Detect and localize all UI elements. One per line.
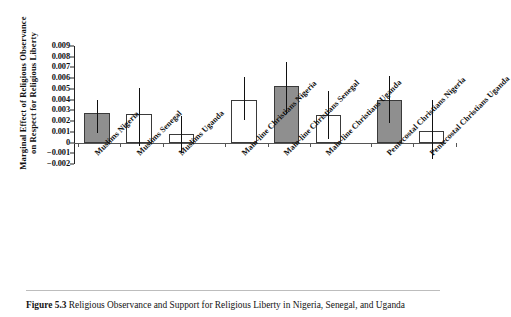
caption-divider	[26, 290, 440, 291]
error-bar	[286, 62, 287, 113]
y-tick-mark	[70, 142, 74, 143]
y-tick-mark	[70, 67, 74, 68]
y-axis-title-line2: on Respect for Religious Liberty	[28, 8, 38, 178]
x-tick-mark	[225, 143, 226, 147]
y-tick-label: 0.006	[52, 74, 70, 82]
x-tick-mark	[310, 143, 311, 147]
error-bar	[139, 88, 140, 146]
x-tick-mark	[413, 143, 414, 147]
y-tick-mark	[70, 153, 74, 154]
y-tick-mark	[70, 110, 74, 111]
y-tick-label: 0.007	[52, 63, 70, 71]
y-tick-mark	[70, 78, 74, 79]
y-tick-label: 0.009	[52, 42, 70, 50]
y-tick-label: 0.004	[52, 95, 70, 103]
y-tick-label: 0	[66, 138, 70, 146]
x-tick-mark	[456, 143, 457, 147]
x-tick-mark	[78, 143, 79, 147]
y-tick-mark	[70, 131, 74, 132]
x-tick-mark	[268, 143, 269, 147]
y-axis-title-line1: Marginal Effect of Religious Observance	[18, 8, 28, 178]
zero-baseline	[74, 143, 446, 144]
y-tick-label: 0.005	[52, 85, 70, 93]
caption-text: Religious Observance and Support for Rel…	[69, 300, 405, 310]
y-tick-label: 0.003	[52, 106, 70, 114]
caption-label: Figure 5.3	[26, 300, 66, 310]
x-tick-mark	[163, 143, 164, 147]
error-bar	[389, 76, 390, 123]
x-tick-mark	[371, 143, 372, 147]
error-bar	[97, 100, 98, 133]
x-tick-mark	[120, 143, 121, 147]
y-tick-mark	[70, 56, 74, 57]
y-tick-label: 0.001	[52, 128, 70, 136]
y-tick-mark	[70, 46, 74, 47]
y-tick-label: −0.001	[47, 149, 70, 157]
error-bar	[328, 91, 329, 139]
y-tick-mark	[70, 99, 74, 100]
error-bar	[432, 100, 433, 159]
y-tick-mark	[70, 121, 74, 122]
y-tick-label: 0.002	[52, 117, 70, 125]
y-axis-title: Marginal Effect of Religious Observance …	[18, 8, 48, 178]
y-tick-mark	[70, 88, 74, 89]
figure-caption: Figure 5.3 Religious Observance and Supp…	[26, 300, 458, 311]
y-tick-label: −0.002	[47, 160, 70, 168]
error-bar	[181, 116, 182, 154]
y-axis-line	[74, 46, 75, 164]
y-tick-label: 0.008	[52, 53, 70, 61]
plot-area: 0.0090.0080.0070.0060.0050.0040.0030.002…	[74, 46, 446, 164]
y-tick-mark	[70, 164, 74, 165]
error-bar	[244, 77, 245, 120]
